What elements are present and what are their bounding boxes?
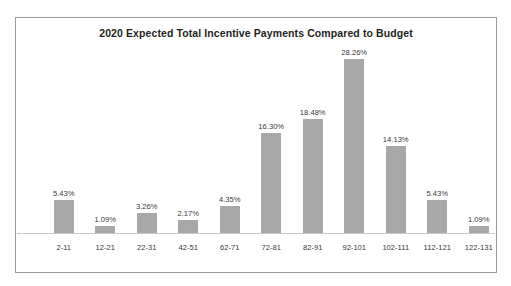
x-axis-tick-label: 92-101 (342, 243, 366, 252)
x-axis-tick-label: 62-71 (220, 243, 239, 252)
bar-group: 4.35%62-71 (209, 18, 251, 272)
bar[interactable] (469, 226, 489, 233)
x-axis-tick-label: 12-21 (96, 243, 115, 252)
bar-value-label: 14.13% (383, 135, 409, 144)
bar-group: 28.26%92-101 (334, 18, 376, 272)
x-axis-tick-label: 102-111 (382, 243, 409, 252)
bar[interactable] (427, 200, 447, 233)
bar[interactable] (386, 146, 406, 233)
bar-value-label: 5.43% (53, 189, 75, 198)
bar-group: 14.13%102-111 (375, 18, 417, 272)
bar-value-label: 5.43% (426, 189, 448, 198)
bar-group: 5.43%2-11 (43, 18, 85, 272)
bar-value-label: 18.48% (300, 108, 326, 117)
x-axis-tick-label: 22-31 (137, 243, 156, 252)
bar-group: 16.30%72-81 (251, 18, 293, 272)
x-axis-tick-label: 112-121 (424, 243, 451, 252)
x-axis-tick-label: 2-11 (56, 243, 71, 252)
bar[interactable] (95, 226, 115, 233)
x-axis-tick-label: 72-81 (262, 243, 281, 252)
bar-group: 1.09%122-131 (458, 18, 500, 272)
bar-group: 2.17%42-51 (168, 18, 210, 272)
plot-area: 5.43%2-111.09%12-213.26%22-312.17%42-514… (16, 18, 496, 272)
x-axis-tick-label: 122-131 (465, 243, 493, 252)
bar[interactable] (303, 119, 323, 233)
bar[interactable] (137, 213, 157, 233)
bar-value-label: 2.17% (177, 209, 199, 218)
x-axis-tick-label: 82-91 (303, 243, 322, 252)
bar-group: 5.43%112-121 (417, 18, 459, 272)
bar[interactable] (178, 220, 198, 233)
bar-group: 18.48%82-91 (292, 18, 334, 272)
bar-value-label: 4.35% (219, 195, 241, 204)
bar-value-label: 1.09% (94, 215, 116, 224)
bar[interactable] (261, 133, 281, 233)
bar-group: 3.26%22-31 (126, 18, 168, 272)
bar-group: 1.09%12-21 (85, 18, 127, 272)
bar[interactable] (220, 206, 240, 233)
bar-value-label: 3.26% (136, 202, 158, 211)
x-axis-tick-label: 42-51 (179, 243, 198, 252)
bar[interactable] (54, 200, 74, 233)
bar-value-label: 1.09% (468, 215, 490, 224)
chart-container: 2020 Expected Total Incentive Payments C… (15, 17, 497, 273)
bar[interactable] (344, 59, 364, 233)
bar-value-label: 28.26% (341, 48, 367, 57)
bar-value-label: 16.30% (258, 122, 284, 131)
